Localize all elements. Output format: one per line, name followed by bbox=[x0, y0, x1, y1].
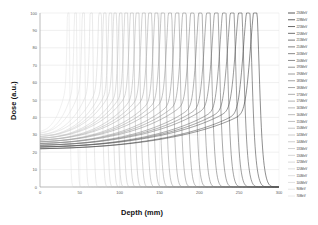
y-tick-label: 80 bbox=[33, 45, 38, 50]
legend-label: 145MeV bbox=[297, 133, 308, 137]
y-tick-label: 40 bbox=[33, 115, 38, 120]
legend-label: 165MeV bbox=[297, 106, 308, 110]
legend-label: 155MeV bbox=[297, 120, 308, 124]
x-tick-label: 100 bbox=[116, 190, 123, 195]
legend-label: 180MeV bbox=[297, 86, 308, 90]
legend-label: 130MeV bbox=[297, 154, 308, 158]
legend-label: 125MeV bbox=[297, 160, 308, 164]
legend-label: 110MeV bbox=[297, 174, 308, 178]
legend-label: 120MeV bbox=[297, 167, 308, 171]
y-axis-title: Dose (a.u.) bbox=[9, 51, 18, 151]
legend: 230MeV228MeV225MeV220MeV215MeV210MeV205M… bbox=[288, 11, 307, 198]
depth-dose-plot: 050100150200250300 010203040506070809010… bbox=[0, 0, 318, 225]
legend-label: 140MeV bbox=[297, 140, 308, 144]
x-tick-label: 150 bbox=[156, 190, 163, 195]
x-axis-tick-labels: 050100150200250300 bbox=[39, 190, 283, 195]
legend-label: 230MeV bbox=[297, 11, 308, 15]
legend-label: 185MeV bbox=[297, 79, 308, 83]
legend-label: 160MeV bbox=[297, 113, 308, 117]
x-tick-label: 300 bbox=[276, 190, 283, 195]
y-tick-label: 10 bbox=[33, 167, 38, 172]
y-axis-tick-labels: 0102030405060708090100 bbox=[30, 11, 37, 190]
y-tick-label: 60 bbox=[33, 80, 38, 85]
x-tick-label: 200 bbox=[196, 190, 203, 195]
y-tick-label: 100 bbox=[30, 11, 37, 16]
x-axis-title: Depth (mm) bbox=[0, 208, 284, 217]
x-tick-label: 250 bbox=[236, 190, 243, 195]
bragg-peak-chart-figure: 050100150200250300 010203040506070809010… bbox=[0, 0, 318, 225]
legend-label: 100MeV bbox=[297, 181, 308, 185]
x-tick-label: 0 bbox=[39, 190, 42, 195]
legend-label: 170MeV bbox=[297, 99, 308, 103]
legend-label: 205MeV bbox=[297, 52, 308, 56]
y-tick-label: 0 bbox=[35, 185, 38, 190]
legend-label: 210MeV bbox=[297, 45, 308, 49]
legend-label: 150MeV bbox=[297, 126, 308, 130]
y-tick-label: 30 bbox=[33, 132, 38, 137]
y-tick-label: 20 bbox=[33, 150, 38, 155]
legend-label: 135MeV bbox=[297, 147, 308, 151]
legend-label: 90MeV bbox=[297, 187, 306, 191]
legend-label: 225MeV bbox=[297, 25, 308, 29]
x-tick-label: 50 bbox=[78, 190, 83, 195]
legend-label: 175MeV bbox=[297, 93, 308, 97]
y-tick-label: 70 bbox=[33, 63, 38, 68]
legend-label: 200MeV bbox=[297, 59, 308, 63]
legend-label: 220MeV bbox=[297, 32, 308, 36]
legend-label: 215MeV bbox=[297, 38, 308, 42]
y-tick-label: 50 bbox=[33, 98, 38, 103]
legend-label: 70MeV bbox=[297, 194, 306, 198]
legend-label: 190MeV bbox=[297, 72, 308, 76]
legend-label: 228MeV bbox=[297, 18, 308, 22]
y-tick-label: 90 bbox=[33, 28, 38, 33]
legend-label: 195MeV bbox=[297, 65, 308, 69]
